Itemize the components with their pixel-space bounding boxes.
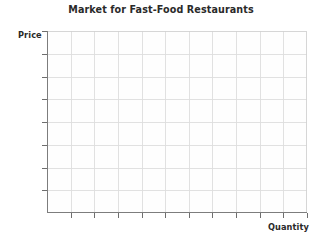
chart-title: Market for Fast-Food Restaurants [0,4,322,16]
x-axis-label: Quantity [268,222,309,232]
plot-svg [47,31,307,213]
chart-canvas: Market for Fast-Food Restaurants Price Q… [0,0,322,248]
plot-background [47,31,307,213]
plot-area [47,31,307,213]
y-axis-label: Price [18,30,42,40]
